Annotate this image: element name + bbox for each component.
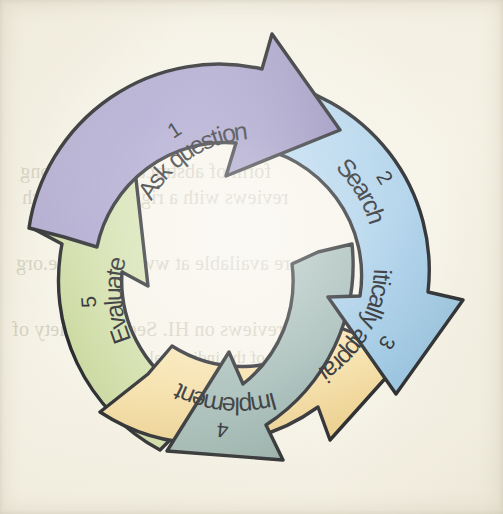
cycle-diagram: 1 Ask question 2 Search 3 Critically app… — [0, 0, 503, 514]
step-5-number: 5 — [77, 295, 101, 308]
scanned-page: form of abstracts with a strongreviews w… — [0, 0, 503, 514]
